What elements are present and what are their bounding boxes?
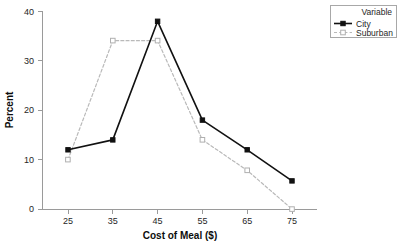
chart-canvas: 40 30 20 10 0 25 35 45 55 65 75 Cost of …	[0, 0, 404, 245]
series-suburban	[66, 38, 295, 211]
suburban-point-75	[290, 207, 295, 212]
city-point-55	[200, 118, 204, 122]
y-tick-label-20: 20	[24, 105, 34, 115]
series-city	[66, 19, 294, 183]
plot-axes	[43, 11, 318, 210]
y-tick-label-30: 30	[24, 56, 34, 66]
x-axis-ticks: 25 35 45 55 65 75	[63, 210, 297, 227]
city-line	[68, 21, 292, 181]
suburban-point-35	[111, 38, 116, 43]
city-point-75	[290, 179, 294, 183]
suburban-point-25	[66, 157, 71, 162]
x-tick-label-25: 25	[63, 216, 73, 226]
y-tick-label-40: 40	[24, 7, 34, 17]
legend-city-marker-swatch	[341, 21, 345, 25]
city-point-45	[155, 19, 159, 23]
y-axis-title: Percent	[4, 91, 15, 128]
x-tick-label-45: 45	[153, 216, 163, 226]
legend-title: Variable	[361, 7, 392, 17]
x-axis-title: Cost of Meal ($)	[143, 230, 217, 241]
y-tick-label-10: 10	[24, 155, 34, 165]
suburban-point-55	[200, 138, 205, 143]
y-tick-label-0: 0	[29, 204, 34, 214]
x-tick-label-55: 55	[197, 216, 207, 226]
suburban-point-45	[155, 38, 160, 43]
legend[interactable]: Variable City Suburban	[331, 6, 397, 38]
suburban-point-65	[245, 168, 250, 173]
x-tick-label-75: 75	[287, 216, 297, 226]
line-chart: 40 30 20 10 0 25 35 45 55 65 75 Cost of …	[0, 0, 404, 245]
city-point-35	[111, 138, 115, 142]
y-axis-ticks: 40 30 20 10 0	[24, 7, 43, 215]
legend-suburban-marker-swatch	[341, 30, 346, 35]
x-tick-label-35: 35	[108, 216, 118, 226]
legend-label-suburban: Suburban	[356, 28, 393, 38]
suburban-line	[68, 41, 292, 209]
city-point-65	[245, 148, 249, 152]
city-point-25	[66, 148, 70, 152]
x-tick-label-65: 65	[242, 216, 252, 226]
